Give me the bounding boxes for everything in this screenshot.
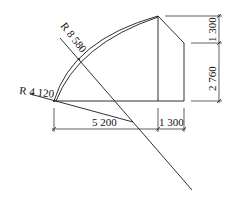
dim-5200-label: 5 200 [92, 116, 117, 128]
arc-intersection-marker [78, 58, 80, 60]
left-point-marker [53, 100, 55, 102]
architectural-drawing: R 8 580 R 4 120 5 200 1 300 1 300 2 760 [0, 0, 240, 201]
dim-1300-vertical-label: 1 300 [206, 17, 218, 42]
dim-2760-label: 2 760 [206, 66, 218, 91]
radius-small-label: R 4 120 [19, 84, 55, 100]
dim-1300-horizontal-label: 1 300 [159, 116, 184, 128]
roof-slope-edge [158, 16, 184, 43]
radius-leader-line [60, 38, 192, 190]
radius-large-label: R 8 580 [58, 20, 89, 55]
